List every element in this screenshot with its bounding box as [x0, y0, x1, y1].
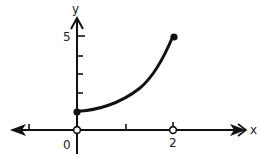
- origin-label: 0: [63, 138, 71, 152]
- x-tick-label-2: 2: [169, 136, 177, 150]
- open-point-x2: [170, 127, 177, 134]
- y-ticks: [77, 36, 85, 93]
- y-tick-label-5: 5: [63, 30, 71, 44]
- y-axis-label: y: [72, 2, 79, 16]
- open-point-origin: [74, 127, 81, 134]
- closed-point-end: [170, 33, 177, 40]
- function-curve: [77, 36, 173, 111]
- closed-point-start: [73, 108, 80, 115]
- function-graph: y 5 0 2 x: [0, 0, 260, 154]
- x-ticks: [29, 122, 173, 130]
- x-axis-label: x: [250, 123, 257, 137]
